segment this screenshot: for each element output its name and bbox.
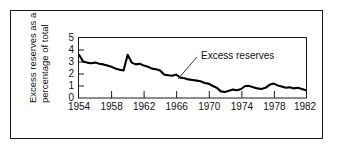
x-tick-label-1962: 1962 — [133, 101, 156, 112]
annotation-label: Excess reserves — [201, 50, 274, 61]
y-axis-label-line1: Excess reserves as a — [27, 12, 38, 103]
y-tick-label-3: 3 — [68, 56, 74, 67]
y-axis-tick-labels: 5 4 3 2 1 0 — [68, 32, 74, 103]
figure-root: Excess reserves as a percentage of total… — [0, 0, 337, 151]
annotation-leader-line — [178, 57, 197, 79]
y-tick-label-4: 4 — [68, 44, 74, 55]
y-tick-label-1: 1 — [68, 80, 74, 91]
x-tick-label-1958: 1958 — [100, 101, 123, 112]
y-axis-label-line2: percentage of total — [39, 24, 50, 103]
x-tick-label-1970: 1970 — [198, 101, 221, 112]
x-tick-label-1954: 1954 — [68, 101, 91, 112]
x-axis-tick-labels: 1954 1958 1962 1966 1970 1974 1978 1982 — [68, 101, 317, 112]
annotation-excess-reserves: Excess reserves — [178, 50, 274, 79]
y-tick-label-5: 5 — [68, 32, 74, 43]
x-tick-label-1974: 1974 — [231, 101, 254, 112]
x-axis-tick-marks — [112, 91, 275, 98]
x-tick-label-1966: 1966 — [166, 101, 189, 112]
x-tick-label-1982: 1982 — [294, 101, 317, 112]
x-tick-label-1978: 1978 — [263, 101, 286, 112]
excess-reserves-line-chart: Excess reserves as a percentage of total… — [0, 0, 337, 151]
y-tick-label-2: 2 — [68, 68, 74, 79]
y-axis-label: Excess reserves as a percentage of total — [27, 12, 50, 103]
